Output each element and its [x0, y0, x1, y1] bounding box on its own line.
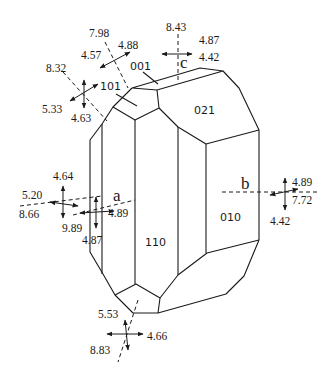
rate-label: 9.89 [62, 222, 82, 234]
face-label-021: 021 [194, 104, 215, 117]
face-labels: 001 101 021 110 010 [100, 60, 241, 249]
rate-label: 4.88 [118, 39, 138, 51]
rate-label: 4.66 [147, 330, 167, 342]
face-label-010: 010 [220, 211, 241, 224]
rate-label: 4.42 [199, 51, 219, 63]
rate-label: 7.98 [89, 27, 109, 39]
axis-label-c: c [180, 53, 188, 72]
growth-arrows [50, 52, 298, 350]
rate-label: 4.87 [199, 34, 219, 46]
rate-label: 4.63 [71, 112, 91, 124]
face-label-110: 110 [145, 236, 166, 249]
rate-label: 5.20 [22, 189, 42, 201]
axis-lines [20, 34, 318, 362]
face-label-101: 101 [100, 80, 121, 93]
rate-label: 4.89 [108, 207, 128, 219]
axis-label-b: b [241, 174, 250, 193]
rate-label: 7.72 [292, 194, 312, 206]
rate-label: 8.66 [19, 208, 39, 220]
rate-label: 8.43 [166, 21, 186, 33]
rate-label: 4.64 [53, 170, 73, 182]
rate-label: 8.83 [90, 344, 110, 356]
crystal-diagram: 001 101 021 110 010 c a b 8.43 4.87 4.42… [0, 0, 332, 378]
rate-label: 5.33 [42, 103, 62, 115]
rate-label: 4.87 [82, 234, 102, 246]
axis-label-a: a [113, 186, 121, 205]
rate-label: 5.53 [98, 308, 118, 320]
rate-label: 4.57 [81, 49, 101, 61]
rate-label: 4.89 [292, 176, 312, 188]
rate-label: 4.42 [270, 215, 290, 227]
face-label-001: 001 [130, 60, 151, 73]
rate-label: 8.32 [46, 62, 66, 74]
